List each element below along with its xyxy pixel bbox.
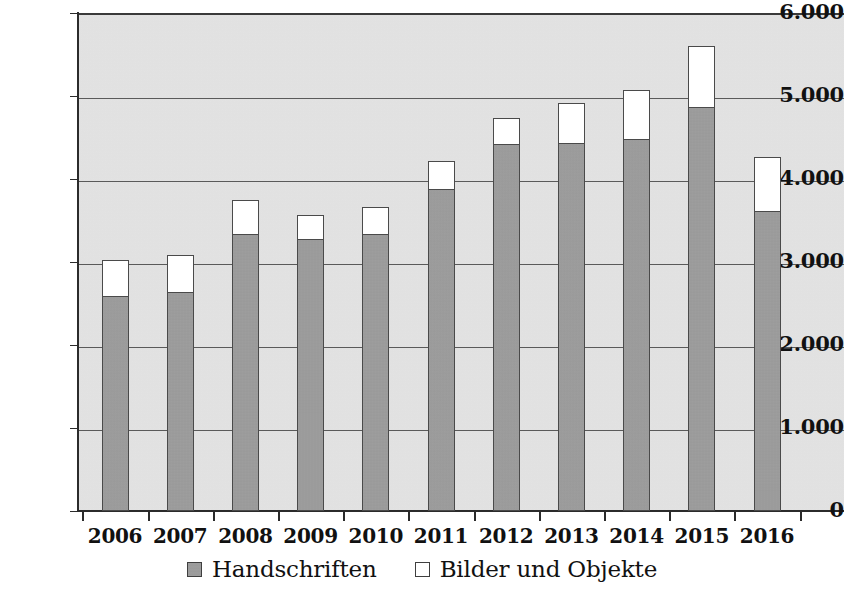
x-axis-tick	[343, 512, 345, 521]
x-axis-label: 2011	[406, 524, 476, 548]
bar-segment-handschriften[interactable]	[623, 138, 650, 511]
x-axis-tick	[474, 512, 476, 521]
y-axis-tick	[70, 428, 79, 429]
bar-segment-handschriften[interactable]	[102, 295, 129, 511]
bar-segment-handschriften[interactable]	[493, 143, 520, 511]
bar-group[interactable]	[232, 200, 259, 511]
bar-segment-bilder-und-objekte[interactable]	[362, 207, 389, 235]
bar-group[interactable]	[688, 46, 715, 511]
x-axis-tick	[539, 512, 541, 521]
bar-segment-bilder-und-objekte[interactable]	[558, 103, 585, 144]
y-axis-tick	[70, 13, 79, 14]
x-axis-label: 2009	[276, 524, 346, 548]
x-axis-tick	[734, 512, 736, 521]
x-axis-label: 2015	[667, 524, 737, 548]
bar-segment-handschriften[interactable]	[754, 211, 781, 511]
y-axis-label: 2.000	[772, 331, 844, 356]
bar-segment-handschriften[interactable]	[362, 234, 389, 511]
legend-label: Handschriften	[212, 556, 377, 582]
x-axis-label: 2013	[536, 524, 606, 548]
legend-item[interactable]: Bilder und Objekte	[415, 556, 657, 582]
y-axis-label: 1.000	[772, 414, 844, 439]
bar-group[interactable]	[623, 90, 650, 511]
bar-group[interactable]	[428, 161, 455, 511]
bar-segment-bilder-und-objekte[interactable]	[102, 260, 129, 297]
x-axis-label: 2006	[80, 524, 150, 548]
bar-group[interactable]	[754, 157, 781, 511]
y-axis-tick	[70, 262, 79, 263]
bar-segment-handschriften[interactable]	[428, 188, 455, 511]
y-axis-tick	[70, 345, 79, 346]
x-axis-tick	[408, 512, 410, 521]
y-axis-tick	[70, 96, 79, 97]
bar-group[interactable]	[167, 255, 194, 511]
x-axis-tick	[604, 512, 606, 521]
legend-label: Bilder und Objekte	[440, 556, 657, 582]
bar-segment-handschriften[interactable]	[688, 106, 715, 511]
x-axis-tick	[669, 512, 671, 521]
x-axis-tick	[148, 512, 150, 521]
x-axis-tick	[82, 512, 84, 521]
bar-segment-handschriften[interactable]	[232, 234, 259, 511]
bar-group[interactable]	[297, 215, 324, 511]
y-axis-tick	[70, 179, 79, 180]
y-axis-label: 5.000	[772, 82, 844, 107]
bar-segment-bilder-und-objekte[interactable]	[428, 161, 455, 190]
bar-segment-bilder-und-objekte[interactable]	[688, 46, 715, 107]
bar-segment-bilder-und-objekte[interactable]	[493, 118, 520, 145]
x-axis-label: 2014	[602, 524, 672, 548]
gridline	[78, 181, 844, 182]
bar-segment-handschriften[interactable]	[167, 292, 194, 511]
stacked-bar-chart: 01.0002.0003.0004.0005.0006.000 20062007…	[0, 0, 844, 593]
bar-segment-handschriften[interactable]	[558, 142, 585, 511]
bar-segment-bilder-und-objekte[interactable]	[297, 215, 324, 241]
y-axis-label: 3.000	[772, 248, 844, 273]
bar-segment-bilder-und-objekte[interactable]	[232, 200, 259, 236]
y-axis-label: 4.000	[772, 165, 844, 190]
chart-legend: HandschriftenBilder und Objekte	[0, 556, 844, 582]
x-axis-tick	[278, 512, 280, 521]
bar-group[interactable]	[493, 118, 520, 511]
x-axis-label: 2016	[732, 524, 802, 548]
x-axis-label: 2007	[145, 524, 215, 548]
bar-segment-bilder-und-objekte[interactable]	[754, 157, 781, 212]
x-axis-label: 2008	[210, 524, 280, 548]
gridline	[78, 98, 844, 99]
y-axis-label: 0	[772, 497, 844, 522]
x-axis-label: 2012	[471, 524, 541, 548]
x-axis-tick	[213, 512, 215, 521]
legend-swatch-icon	[187, 562, 202, 577]
bar-group[interactable]	[362, 207, 389, 511]
y-axis-tick	[70, 511, 79, 512]
bar-segment-handschriften[interactable]	[297, 239, 324, 511]
bar-group[interactable]	[558, 103, 585, 511]
bar-segment-bilder-und-objekte[interactable]	[167, 255, 194, 293]
legend-item[interactable]: Handschriften	[187, 556, 377, 582]
legend-swatch-icon	[415, 562, 430, 577]
x-axis-label: 2010	[341, 524, 411, 548]
bar-segment-bilder-und-objekte[interactable]	[623, 90, 650, 140]
x-axis-tick	[800, 512, 802, 521]
y-axis-label: 6.000	[772, 0, 844, 24]
bar-group[interactable]	[102, 260, 129, 511]
